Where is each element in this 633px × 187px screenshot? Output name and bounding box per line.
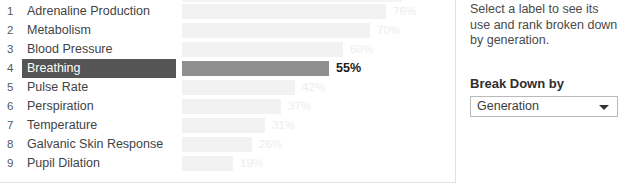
- chevron-down-icon: [599, 105, 609, 110]
- break-down-by-selected-value: Generation: [477, 97, 539, 116]
- rank-category-label[interactable]: Temperature: [22, 116, 103, 135]
- rank-row[interactable]: 6Perspiration37%: [0, 97, 456, 116]
- rank-number: 8: [7, 135, 21, 154]
- rank-number: 9: [7, 154, 21, 173]
- rank-category-label[interactable]: Blood Pressure: [22, 40, 118, 59]
- rank-number: 1: [7, 2, 21, 21]
- rank-category-label[interactable]: Breathing: [22, 59, 176, 78]
- rank-number: 7: [7, 116, 21, 135]
- bar-value-label: 31%: [272, 118, 295, 133]
- bar-track: 37%: [182, 99, 450, 114]
- rank-row[interactable]: 1Adrenaline Production76%: [0, 2, 456, 21]
- bar-fill: [182, 61, 329, 76]
- rank-row[interactable]: 5Pulse Rate42%: [0, 78, 456, 97]
- rank-row[interactable]: 8Galvanic Skin Response26%: [0, 135, 456, 154]
- rank-number: 4: [7, 59, 21, 78]
- bar-track: 70%: [182, 23, 450, 38]
- side-panel: Select a label to see its use and rank b…: [470, 0, 633, 187]
- rank-category-label[interactable]: Adrenaline Production: [22, 2, 156, 21]
- bar-value-label: 60%: [350, 42, 373, 57]
- bar-fill: [182, 42, 343, 57]
- rank-row[interactable]: 3Blood Pressure60%: [0, 40, 456, 59]
- rank-category-label[interactable]: Galvanic Skin Response: [22, 135, 169, 154]
- bar-fill: [182, 23, 370, 38]
- bar-track: 76%: [182, 4, 450, 19]
- bar-value-label: 26%: [259, 137, 282, 152]
- break-down-by-dropdown[interactable]: Generation: [470, 96, 618, 117]
- rank-row[interactable]: 7Temperature31%: [0, 116, 456, 135]
- rank-number: 3: [7, 40, 21, 59]
- break-down-by-label: Break Down by: [470, 76, 564, 91]
- bar-fill: [182, 4, 386, 19]
- rank-row[interactable]: 2Metabolism70%: [0, 21, 456, 40]
- bar-fill: [182, 80, 295, 95]
- bar-track: 42%: [182, 80, 450, 95]
- bar-value-label: 19%: [240, 156, 263, 171]
- rank-category-label[interactable]: Pupil Dilation: [22, 154, 106, 173]
- selection-hint-text: Select a label to see its use and rank b…: [470, 2, 622, 49]
- rank-row[interactable]: 4Breathing55%: [0, 59, 456, 78]
- rank-category-label[interactable]: Pulse Rate: [22, 78, 94, 97]
- ranked-bar-panel: Nervous System Response 1Adrenaline Prod…: [0, 0, 456, 183]
- bar-value-label: 70%: [377, 23, 400, 38]
- bar-track: 19%: [182, 156, 450, 171]
- bar-fill: [182, 118, 265, 133]
- rank-row[interactable]: 9Pupil Dilation19%: [0, 154, 456, 173]
- bar-value-label: 37%: [288, 99, 311, 114]
- bar-fill: [182, 156, 233, 171]
- bar-fill: [182, 99, 281, 114]
- bar-value-label: 55%: [336, 61, 361, 76]
- bar-value-label: 42%: [302, 80, 325, 95]
- rank-category-label[interactable]: Perspiration: [22, 97, 100, 116]
- bar-fill: [182, 137, 252, 152]
- rank-number: 6: [7, 97, 21, 116]
- bar-track: 31%: [182, 118, 450, 133]
- rank-number: 2: [7, 21, 21, 40]
- bar-track: 26%: [182, 137, 450, 152]
- rank-category-label[interactable]: Metabolism: [22, 21, 97, 40]
- bar-track: 60%: [182, 42, 450, 57]
- rank-number: 5: [7, 78, 21, 97]
- bar-track: 55%: [182, 61, 450, 76]
- bar-value-label: 76%: [393, 4, 416, 19]
